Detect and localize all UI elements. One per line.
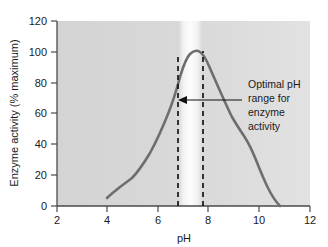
y-tick-label-120: 120 [29, 15, 47, 27]
x-tick-label-4: 4 [104, 214, 110, 226]
x-tick-label-12: 12 [304, 214, 316, 226]
y-tick-label-100: 100 [29, 46, 47, 58]
chart-canvas: 0 20 40 60 80 100 120 2 4 6 8 10 12 pH E… [0, 0, 328, 247]
x-tick-label-10: 10 [253, 214, 265, 226]
x-tick-label-8: 8 [205, 214, 211, 226]
x-tick-label-6: 6 [155, 214, 161, 226]
y-tick-label-60: 60 [35, 107, 47, 119]
y-tick-label-20: 20 [35, 169, 47, 181]
x-axis-title: pH [177, 232, 191, 244]
annotation-line-1: Optimal pH [248, 78, 301, 90]
annotation-line-3: enzyme [248, 106, 285, 118]
y-tick-label-80: 80 [35, 77, 47, 89]
x-tick-label-2: 2 [54, 214, 60, 226]
y-tick-label-0: 0 [41, 200, 47, 212]
annotation-line-4: activity [248, 120, 281, 132]
y-tick-label-40: 40 [35, 138, 47, 150]
annotation-line-2: range for [248, 92, 291, 104]
enzyme-activity-ph-chart: 0 20 40 60 80 100 120 2 4 6 8 10 12 pH E… [0, 0, 328, 247]
optimal-range-band [178, 21, 203, 206]
y-axis-title: Enzyme activity (% maximum) [8, 39, 20, 186]
